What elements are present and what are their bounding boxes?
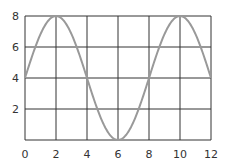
- y-tick-label: 2: [12, 103, 19, 116]
- x-tick-label: 0: [22, 148, 29, 161]
- x-axis-tick-labels: 024681012: [22, 148, 219, 161]
- x-tick-label: 4: [84, 148, 91, 161]
- x-tick-label: 12: [204, 148, 218, 161]
- grid-lines: [25, 16, 211, 140]
- x-tick-label: 8: [146, 148, 153, 161]
- y-tick-label: 4: [12, 72, 19, 85]
- x-tick-label: 6: [115, 148, 122, 161]
- y-tick-label: 6: [12, 41, 19, 54]
- line-chart: 024681012 2468: [0, 0, 228, 165]
- y-axis-tick-labels: 2468: [12, 10, 19, 116]
- x-tick-label: 10: [173, 148, 187, 161]
- x-tick-label: 2: [53, 148, 60, 161]
- y-tick-label: 8: [12, 10, 19, 23]
